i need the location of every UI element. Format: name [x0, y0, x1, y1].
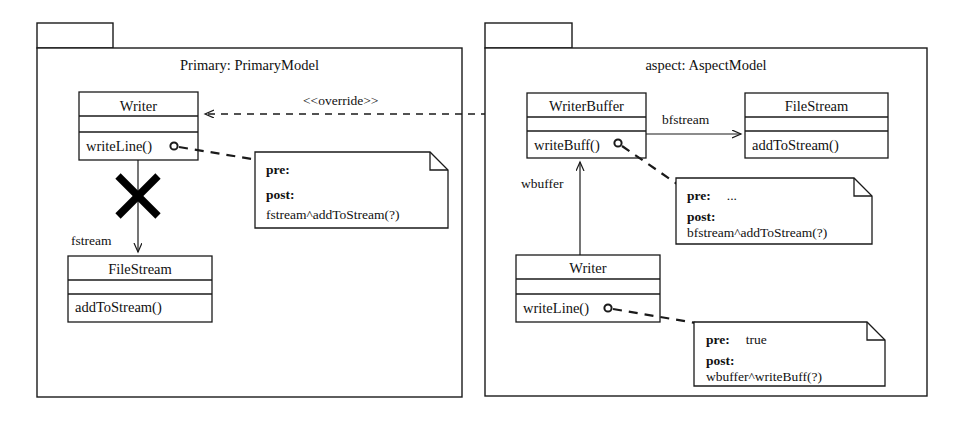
stereotype-override-label: <<override>> [303, 94, 378, 108]
class-aspect-writerbuffer-operation: writeBuff() [534, 138, 600, 153]
note-3-pre-key: pre: [706, 332, 730, 347]
package-primary-tab [37, 23, 113, 48]
note-1-pre-row: pre: [266, 161, 300, 177]
package-aspect-title: aspect: AspectModel [485, 58, 927, 73]
note-3-post-key: post: [706, 353, 735, 368]
package-aspect-tab [485, 23, 572, 48]
class-aspect-writer-operation: writeLine() [523, 301, 589, 316]
note-1-pre-key: pre: [266, 162, 290, 177]
note-2-pre-row: pre: ... [687, 187, 737, 203]
class-aspect-filestream-name: FileStream [745, 99, 888, 114]
note-1-post-key: post: [266, 187, 295, 202]
package-primary-title: Primary: PrimaryModel [37, 58, 462, 73]
note-3-pre-value: true [746, 332, 767, 347]
class-primary-filestream-operation: addToStream() [75, 300, 162, 315]
note-2-post-key: post: [687, 209, 716, 224]
class-primary-writer-name: Writer [79, 99, 198, 114]
note-2-pre-value: ... [727, 188, 737, 203]
class-primary-filestream-name: FileStream [68, 262, 212, 277]
note-1-post-key-row: post: [266, 186, 295, 202]
note-3-pre-row: pre: true [706, 331, 767, 347]
class-primary-writer-operation: writeLine() [86, 139, 152, 154]
note-2-post-value: bfstream^addToStream(?) [687, 226, 827, 240]
class-aspect-writerbuffer-name: WriterBuffer [527, 99, 646, 114]
note-3-post-value: wbuffer^writeBuff(?) [706, 370, 822, 384]
note-3-post-key-row: post: [706, 352, 735, 368]
class-aspect-writer-name: Writer [516, 261, 660, 276]
class-aspect-filestream-operation: addToStream() [752, 138, 839, 153]
note-2-pre-key: pre: [687, 188, 711, 203]
note-1-post-value: fstream^addToStream(?) [266, 208, 400, 222]
note-2-post-key-row: post: [687, 208, 716, 224]
uml-diagram-canvas: primary Writer --> [0, 0, 964, 423]
association-fstream-label: fstream [71, 234, 111, 248]
association-wbuffer-label: wbuffer [521, 177, 563, 191]
association-bfstream-label: bfstream [662, 113, 709, 127]
